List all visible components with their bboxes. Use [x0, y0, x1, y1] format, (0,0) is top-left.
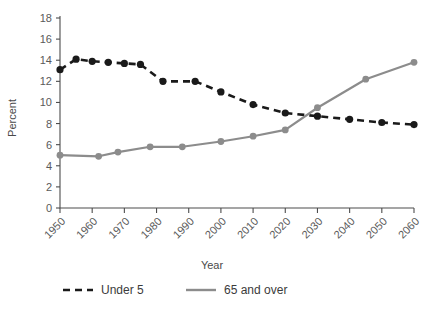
data-point: [314, 113, 321, 120]
x-tick-label: 1950: [42, 215, 68, 241]
x-tick-label: 2060: [396, 215, 422, 241]
y-tick-label: 18: [40, 12, 52, 24]
data-point: [159, 78, 166, 85]
x-tick-label: 1970: [106, 215, 132, 241]
data-point: [282, 126, 289, 133]
data-point: [218, 138, 225, 145]
data-point: [137, 61, 144, 68]
data-point: [378, 119, 385, 126]
data-point: [282, 109, 289, 116]
data-point: [362, 76, 369, 83]
data-point: [89, 58, 96, 65]
data-point: [179, 143, 186, 150]
series-line: [60, 62, 414, 156]
data-point: [346, 116, 353, 123]
x-tick-label: 1990: [170, 215, 196, 241]
data-point: [105, 59, 112, 66]
x-tick-label: 2040: [331, 215, 357, 241]
data-point: [121, 60, 128, 67]
legend-label-under-5: Under 5: [101, 283, 144, 297]
data-point: [115, 149, 122, 156]
y-tick-label: 16: [40, 33, 52, 45]
data-point: [411, 59, 418, 66]
data-point: [95, 153, 102, 160]
x-tick-label: 1980: [138, 215, 164, 241]
y-tick-label: 6: [46, 139, 52, 151]
series-under-5: [56, 56, 417, 129]
x-tick-label: 2020: [267, 215, 293, 241]
data-point: [250, 133, 257, 140]
x-tick-label: 1960: [74, 215, 100, 241]
y-tick-label: 12: [40, 75, 52, 87]
data-point: [192, 78, 199, 85]
axis-frame: [60, 16, 414, 208]
chart-container: 024681012141618 195019601970198019902000…: [0, 0, 422, 311]
series-line: [60, 59, 414, 124]
y-tick-label: 2: [46, 181, 52, 193]
y-axis: 024681012141618: [40, 12, 60, 214]
data-point: [249, 101, 256, 108]
data-point: [72, 56, 79, 63]
x-axis-title: Year: [201, 259, 224, 271]
data-point: [56, 66, 63, 73]
data-point: [314, 104, 321, 111]
data-point: [410, 121, 417, 128]
y-tick-label: 8: [46, 118, 52, 130]
series-65-and-over: [57, 59, 418, 160]
x-tick-label: 2050: [363, 215, 389, 241]
data-point: [147, 143, 154, 150]
x-tick-label: 2000: [203, 215, 229, 241]
legend: Under 565 and over: [63, 283, 287, 297]
y-axis-title: Percent: [6, 99, 18, 137]
y-tick-label: 14: [40, 54, 52, 66]
x-axis: 1950196019701980199020002010202020302040…: [42, 208, 422, 241]
x-tick-label: 2010: [235, 215, 261, 241]
x-tick-label: 2030: [299, 215, 325, 241]
line-chart: 024681012141618 195019601970198019902000…: [0, 0, 422, 311]
y-tick-label: 10: [40, 96, 52, 108]
data-point: [57, 152, 64, 159]
legend-label-65-and-over: 65 and over: [224, 283, 287, 297]
y-tick-label: 0: [46, 202, 52, 214]
y-tick-label: 4: [46, 160, 52, 172]
data-point: [217, 88, 224, 95]
series-layer: [56, 56, 417, 160]
